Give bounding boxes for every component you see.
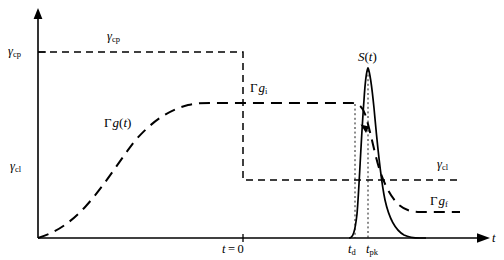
x-tick-label-tpk-sub: pk — [369, 247, 378, 257]
x-axis-label: t — [492, 232, 495, 245]
annotation-gamma-g-f: Γ gf — [430, 194, 448, 208]
y-tick-label-gamma-cp: γcp — [8, 45, 21, 58]
signal-pulse-curve — [349, 68, 426, 238]
x-tick-label-t-zero: t = 0 — [222, 243, 244, 256]
signal-pulse-path — [349, 68, 426, 238]
gamma-cp-step-path — [38, 52, 460, 180]
annotation-gamma-g-f-sub: f — [445, 199, 448, 209]
y-tick-label-gamma-cl: γcl — [10, 160, 21, 173]
x-tick-label-td-sub: d — [351, 247, 355, 257]
gamma-cp-step-curve — [38, 52, 460, 180]
x-axis-arrowhead — [477, 233, 490, 243]
gamma-g-curve — [38, 103, 460, 238]
annotation-gamma-g-i: Γ gi — [250, 81, 267, 95]
gamma-g-t-path — [38, 103, 460, 238]
y-tick-label-gamma-cl-sub: cl — [15, 164, 21, 174]
annotation-gamma-g-t: Γ g(t) — [104, 116, 131, 129]
y-tick-label-gamma-cp-sub: cp — [13, 49, 21, 59]
annotation-gamma-g-i-sub: i — [265, 86, 267, 96]
x-tick-label-tpk: tpk — [366, 243, 378, 256]
axes-group — [34, 8, 490, 243]
y-axis-arrowhead — [34, 8, 43, 19]
annotation-signal-s-t: S(t) — [358, 50, 377, 63]
annotation-gamma-cp: γcp — [107, 30, 120, 43]
x-tick-label-td: td — [348, 243, 356, 256]
annotation-gamma-cl-sub: cl — [442, 162, 448, 172]
annotation-gamma-cl: γcl — [437, 158, 448, 171]
figure-canvas — [0, 0, 504, 260]
annotation-gamma-cp-sub: cp — [112, 34, 120, 44]
tick-marks-group — [38, 52, 243, 242]
